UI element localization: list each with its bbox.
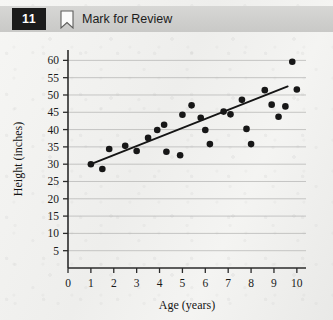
data-point (262, 87, 269, 94)
x-axis-title: Age (years) (159, 298, 215, 312)
data-point (289, 58, 296, 65)
scatter-plot-figure: 51015202530354045505560 012345678910 Age… (0, 32, 333, 320)
data-point (239, 97, 246, 104)
data-point (99, 166, 106, 173)
data-point (227, 111, 234, 118)
y-tick-label: 10 (48, 227, 60, 239)
y-tick-label: 55 (48, 72, 60, 84)
trend-line (91, 86, 288, 164)
x-tick-label: 8 (248, 277, 254, 289)
data-point (220, 108, 227, 115)
question-number-badge: 11 (12, 8, 46, 30)
data-point (202, 127, 209, 134)
x-tick-label: 6 (202, 277, 208, 289)
x-tick-label: 3 (134, 277, 140, 289)
data-points (88, 58, 301, 172)
data-point (268, 101, 275, 108)
data-point (188, 102, 195, 109)
x-tick-label: 9 (271, 277, 277, 289)
bookmark-outline-icon[interactable] (60, 10, 74, 29)
x-tick-label: 7 (225, 277, 231, 289)
data-point (122, 143, 129, 150)
data-point (177, 152, 184, 159)
x-tick-label: 5 (180, 277, 186, 289)
x-tick-label: 1 (88, 277, 94, 289)
data-point (161, 121, 168, 128)
x-tick-label: 2 (111, 277, 117, 289)
y-tick-label: 35 (48, 141, 60, 153)
data-point (197, 115, 204, 122)
y-tick-label: 5 (53, 245, 59, 257)
data-point (275, 113, 282, 120)
data-point (133, 148, 140, 155)
y-axis-title: Height (inches) (11, 122, 25, 196)
y-tick-label: 45 (48, 106, 60, 118)
y-tick-label: 30 (48, 158, 60, 170)
gridlines (68, 60, 306, 250)
data-point (145, 135, 152, 142)
x-tick-label: 10 (291, 277, 303, 289)
data-point (106, 146, 113, 153)
x-tick-label: 4 (157, 277, 163, 289)
y-tick-label: 40 (48, 124, 60, 136)
scatter-plot-svg: 51015202530354045505560 012345678910 Age… (0, 32, 333, 320)
data-point (179, 111, 186, 118)
mark-for-review-label[interactable]: Mark for Review (82, 12, 172, 26)
data-point (154, 127, 161, 134)
data-point (282, 103, 289, 110)
data-point (88, 161, 95, 168)
y-tick-label: 20 (48, 193, 60, 205)
data-point (294, 86, 301, 93)
question-header-bar: 11 Mark for Review (0, 6, 333, 32)
data-point (248, 141, 255, 148)
y-tick-label: 25 (48, 175, 60, 187)
x-tick-label: 0 (65, 277, 71, 289)
y-tick-label: 50 (48, 89, 60, 101)
x-axis-ticks: 012345678910 (65, 268, 303, 289)
data-point (163, 148, 170, 155)
data-point (243, 126, 250, 133)
y-tick-label: 15 (48, 210, 60, 222)
y-tick-label: 60 (48, 54, 60, 66)
data-point (207, 141, 214, 148)
y-axis-ticks: 51015202530354045505560 (48, 54, 69, 256)
